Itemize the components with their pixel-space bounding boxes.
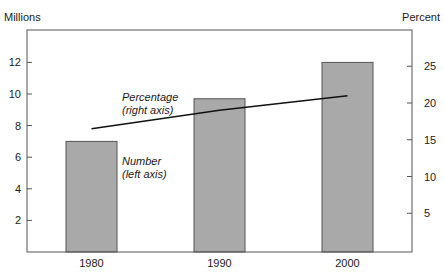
bar-2000	[322, 62, 373, 252]
bar-1990	[194, 99, 245, 252]
left-tick-label: 2	[15, 214, 21, 226]
x-axis: 198019902000	[79, 257, 359, 269]
left-tick-label: 12	[9, 56, 21, 68]
right-tick-label: 10	[424, 171, 436, 183]
dual-axis-chart: Millions Percent 24681012 510152025 1980…	[0, 0, 444, 280]
line-annotation-1: Percentage	[122, 91, 178, 103]
bar-1980	[66, 141, 117, 252]
left-tick-label: 10	[9, 88, 21, 100]
bar-annotation-1: Number	[122, 155, 162, 167]
right-tick-label: 25	[424, 60, 436, 72]
line-annotation-2: (right axis)	[122, 104, 174, 116]
right-tick-label: 15	[424, 134, 436, 146]
x-label-1980: 1980	[79, 257, 103, 269]
x-label-2000: 2000	[335, 257, 359, 269]
right-tick-label: 20	[424, 97, 436, 109]
right-tick-label: 5	[424, 207, 430, 219]
left-tick-label: 4	[15, 183, 21, 195]
bar-series	[66, 62, 373, 252]
left-axis: 24681012	[9, 56, 32, 226]
left-tick-label: 6	[15, 151, 21, 163]
left-tick-label: 8	[15, 120, 21, 132]
bar-annotation-2: (left axis)	[122, 168, 167, 180]
right-axis-title: Percent	[402, 11, 440, 23]
x-label-1990: 1990	[207, 257, 231, 269]
left-axis-title: Millions	[4, 11, 41, 23]
right-axis: 510152025	[407, 60, 436, 219]
